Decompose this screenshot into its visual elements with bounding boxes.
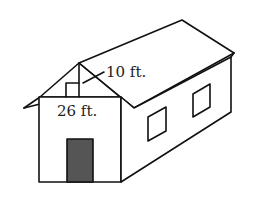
width-label: 26 ft. <box>57 104 97 119</box>
house-drawing <box>0 0 254 197</box>
height-label: 10 ft. <box>106 65 146 80</box>
house-diagram: 10 ft. 26 ft. <box>0 0 254 197</box>
door <box>67 139 93 182</box>
right-angle-mark <box>66 83 79 97</box>
